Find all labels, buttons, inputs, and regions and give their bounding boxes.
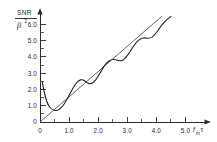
y-tick-label: 6.0 (28, 21, 38, 28)
y-axis-arrowhead (37, 8, 42, 15)
x-tick-label: 3.0 (123, 127, 133, 134)
snr-curve (42, 17, 171, 111)
x-tick-label: 5.0 (181, 127, 191, 134)
x-tick-label: 1.0 (64, 127, 74, 134)
y-axis-tick-labels: 6.0 5.0 4.0 3.0 2.0 1.0 0 (28, 21, 38, 126)
x-tick-label: 2.0 (94, 127, 104, 134)
x-axis-minor-ticks (55, 119, 171, 123)
x-axis-title: f m τ (193, 126, 204, 136)
x-tick-label: 4.0 (152, 127, 162, 134)
y-axis-denominator: β (16, 20, 22, 30)
y-tick-label: 5.0 (28, 37, 38, 44)
asymptote-line (40, 16, 162, 122)
x-axis-tau: τ (201, 126, 204, 133)
x-axis-subscript: m (196, 131, 200, 136)
y-tick-label: 1.0 (28, 102, 38, 109)
x-axis-tick-labels: 0 1.0 2.0 3.0 4.0 5.0 (38, 127, 190, 134)
y-tick-label: 0 (33, 118, 37, 125)
y-tick-label: 3.0 (28, 70, 38, 77)
y-axis-numerator: SNR (17, 9, 32, 16)
x-axis-major-ticks (69, 117, 185, 123)
x-tick-label: 0 (38, 127, 42, 134)
figure-container: SNR β 2 6.0 5.0 4.0 3.0 2.0 1.0 0 0 1.0 … (0, 0, 217, 142)
y-tick-label: 4.0 (28, 53, 38, 60)
y-tick-label: 2.0 (28, 86, 38, 93)
x-axis-arrowhead (205, 119, 212, 124)
chart-plot: SNR β 2 6.0 5.0 4.0 3.0 2.0 1.0 0 0 1.0 … (0, 0, 217, 142)
